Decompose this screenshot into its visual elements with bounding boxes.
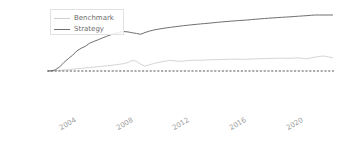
legend-label-strategy: Strategy: [74, 25, 104, 33]
x-axis-tick-label: 2008: [115, 117, 134, 132]
legend-item-strategy: Strategy: [54, 24, 120, 34]
legend-swatch-strategy: [54, 29, 70, 30]
chart-legend: Benchmark Strategy: [50, 9, 124, 35]
x-axis-tick-label: 2004: [58, 117, 77, 132]
legend-swatch-benchmark: [54, 18, 70, 19]
cumulative-returns-chart: 100K%10K%1K%100%0%-100%-1000%-10000% 200…: [0, 0, 341, 146]
x-axis-tick-label: 2016: [229, 117, 248, 132]
legend-item-benchmark: Benchmark: [54, 13, 120, 23]
x-axis-tick-label: 2012: [172, 117, 191, 132]
legend-label-benchmark: Benchmark: [74, 14, 114, 22]
x-axis-tick-label: 2020: [285, 117, 304, 132]
